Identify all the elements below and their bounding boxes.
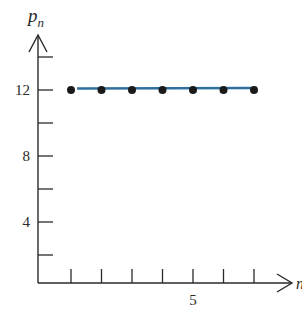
data-point <box>98 86 106 94</box>
axis-labels: pn n <box>26 5 302 292</box>
data-point <box>159 86 167 94</box>
x-tick-label: 5 <box>189 292 197 308</box>
data-point <box>67 86 75 94</box>
chart: 48125 pn n <box>0 0 302 320</box>
y-axis-label: pn <box>26 5 44 30</box>
data-point <box>250 86 258 94</box>
x-axis-label: n <box>296 275 302 292</box>
y-tick-label: 8 <box>23 148 31 164</box>
y-tick-label: 4 <box>23 214 31 230</box>
axes <box>29 35 292 292</box>
data-point <box>220 86 228 94</box>
data-point <box>189 86 197 94</box>
y-tick-label: 12 <box>15 82 30 98</box>
data-point <box>128 86 136 94</box>
tick-labels: 48125 <box>15 82 197 308</box>
